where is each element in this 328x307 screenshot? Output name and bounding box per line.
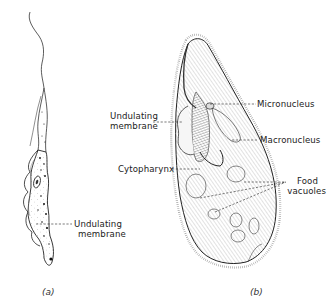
label-macronucleus: Macronucleus [260,135,320,145]
label-undulating-membrane-b: Undulating membrane [110,111,158,131]
label-line-2: membrane [74,229,126,239]
cell-body [28,150,53,265]
label-food-vacuoles: Food vacuoles [276,176,326,196]
flagellum [29,12,44,88]
label-line-2: vacuoles [276,186,326,196]
label-line-1: Food [276,176,326,186]
label-line-2: membrane [110,121,158,131]
label-micronucleus: Micronucleus [257,99,315,109]
label-line-1: Undulating [74,219,126,229]
panel-b-organism [171,35,280,268]
diagram-canvas [0,0,328,307]
panel-a-organism [24,12,54,265]
caption-panel-a: (a) [42,287,55,297]
caption-panel-b: (b) [250,287,263,297]
label-undulating-membrane-a: Undulating membrane [74,219,126,239]
label-cytopharynx: Cytopharynx [118,164,174,174]
label-line-1: Undulating [110,111,158,121]
